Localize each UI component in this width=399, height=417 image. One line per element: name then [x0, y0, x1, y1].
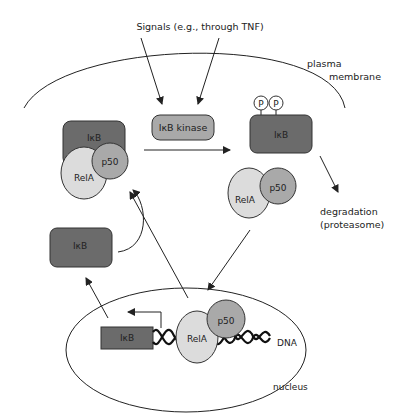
- ikb-gene-label: IκB: [120, 333, 134, 343]
- ikb-label-complex: IκB: [87, 133, 101, 143]
- proteasome-label: (proteasome): [320, 219, 384, 230]
- plasma-label: plasma: [307, 58, 342, 69]
- degradation-label: degradation: [320, 206, 378, 217]
- rela-label-complex: RelA: [74, 173, 95, 183]
- nuclear-translocation-arrow: [208, 230, 250, 290]
- ikb-new-label: IκB: [73, 241, 87, 251]
- rela-label-free: RelA: [235, 195, 256, 205]
- ikb-kinase-label: IκB kinase: [159, 122, 208, 133]
- dna-label: DNA: [277, 338, 298, 348]
- nucleus-label: nucleus: [273, 382, 308, 392]
- svg-text:P: P: [258, 99, 264, 109]
- signals-label: Signals (e.g., through TNF): [136, 21, 263, 32]
- rebinding-arrow: [118, 190, 143, 252]
- membrane-label: membrane: [329, 71, 381, 82]
- ikb-export-arrow: [86, 278, 108, 318]
- pathway-diagram: Signals (e.g., through TNF) plasma membr…: [0, 0, 399, 417]
- phospho-ikb-label: IκB: [274, 130, 288, 140]
- signal-arrow-2: [198, 38, 219, 104]
- export-arrow: [130, 192, 188, 298]
- p50-label-free: p50: [269, 183, 286, 193]
- plasma-membrane: [24, 53, 345, 108]
- p50-label-nuclear: p50: [217, 316, 234, 326]
- signal-arrow-1: [141, 38, 162, 104]
- svg-text:P: P: [273, 99, 279, 109]
- degradation-arrow: [320, 156, 338, 192]
- transcription-arrow: [128, 312, 161, 328]
- p50-label-complex: p50: [101, 157, 118, 167]
- rela-label-nuclear: RelA: [187, 334, 208, 344]
